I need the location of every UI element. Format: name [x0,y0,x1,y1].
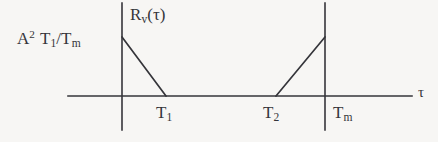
t1-base: T [156,103,166,122]
x-tick-label-t2: T2 [263,104,279,124]
x-axis-label-tau: τ [418,85,424,100]
t2-sub: 2 [273,111,279,124]
t2-base: T [263,103,273,122]
tm-sub: m [343,111,352,124]
y-axis-peak-value-label: A2T1/Tm [17,29,81,50]
function-name-base: R [130,5,141,24]
x-tick-label-t1: T1 [156,104,172,124]
t1-sub: 1 [166,111,172,124]
axes-group [68,3,412,130]
figure-canvas [0,0,438,142]
autocorrelation-figure: A2T1/Tm Rv(τ) T1 T2 Tm τ [0,0,438,142]
peak-value-base: A [17,29,29,48]
curve-rising-segment [276,37,325,96]
x-tick-label-tm: Tm [333,104,353,124]
peak-value-numerator: T [40,29,50,48]
peak-value-exponent: 2 [29,28,35,40]
peak-value-denominator-sub: m [71,37,80,50]
curve-group [122,37,325,96]
function-name-argument: (τ) [147,5,165,24]
function-name-label: Rv(τ) [130,6,166,26]
tm-base: T [333,103,343,122]
peak-value-denominator: T [61,29,71,48]
curve-falling-segment [122,37,166,96]
